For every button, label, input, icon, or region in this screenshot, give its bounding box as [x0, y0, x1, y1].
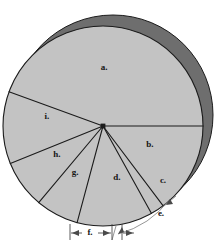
slice-label-a: a.: [101, 62, 108, 72]
pie-chart-canvas: a. b. c. d. g. h. i. e.: [0, 0, 222, 244]
pie-center-vertex: [101, 124, 106, 129]
slice-label-i: i.: [45, 111, 50, 121]
slice-label-g: g.: [72, 167, 79, 177]
arc-dimension-label-e: e.: [158, 208, 164, 218]
slice-label-b: b.: [146, 139, 153, 149]
pie-chart-figure: a. b. c. d. g. h. i. e.: [0, 0, 222, 244]
slice-label-c: c.: [160, 175, 166, 185]
slice-label-h: h.: [53, 149, 60, 159]
slice-label-d: d.: [113, 172, 120, 182]
linear-dimension-label-f: f.: [87, 227, 92, 237]
